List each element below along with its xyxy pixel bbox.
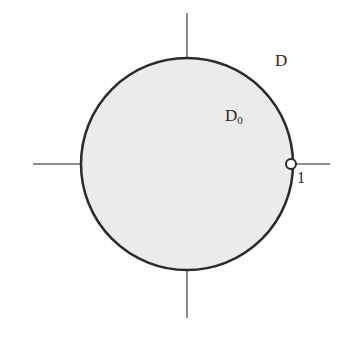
inner-region-label: D0: [225, 107, 243, 126]
unit-disk-shape: [81, 58, 293, 270]
outer-region-label: D: [275, 52, 287, 69]
boundary-point-label: 1: [297, 170, 305, 186]
inner-region-label-base: D: [225, 106, 237, 125]
figure-canvas: D D0 1: [0, 0, 350, 341]
inner-region-label-subscript: 0: [237, 114, 243, 126]
boundary-point-marker-icon: [286, 159, 296, 169]
